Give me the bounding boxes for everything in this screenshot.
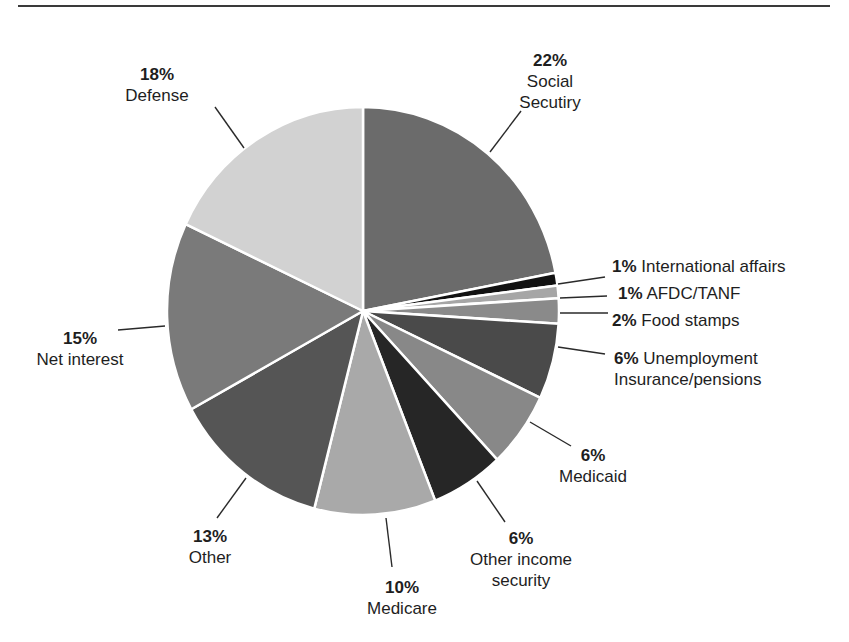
leader-medicaid [530,422,571,446]
label-pct: 15% [37,328,124,349]
label-text: Medicaid [559,466,627,487]
leader-medicare [386,518,392,567]
label-pct: 2% [612,311,637,330]
label-pct: 6% [470,528,572,549]
label-pct: 1% [618,284,643,303]
label-medicaid: 6% Medicaid [559,445,627,487]
label-text: Social [519,71,580,92]
label-text: Medicare [367,598,437,619]
leader-net-interest [118,326,165,330]
label-pct: 6% [614,349,639,368]
label-other: 13% Other [189,526,232,568]
label-pct: 6% [559,445,627,466]
label-intl-affairs: 1% International affairs [612,256,786,277]
leader-other-income [477,481,505,522]
label-text: security [470,570,572,591]
leader-intl-affairs [558,277,605,284]
label-text: Net interest [37,349,124,370]
label-pct: 22% [519,50,580,71]
label-text: Other [189,547,232,568]
label-text: Secutiry [519,92,580,113]
pie-slices [167,107,559,515]
label-unemployment: 6% Unemployment Insurance/pensions [614,348,761,390]
label-afdc: 1% AFDC/TANF [618,283,741,304]
leader-defense [215,107,244,148]
label-pct: 18% [125,64,188,85]
label-text: AFDC/TANF [646,284,740,303]
label-net-interest: 15% Net interest [37,328,124,370]
leader-afdc [560,296,607,298]
leader-other [217,478,246,518]
label-text: Unemployment [643,349,757,368]
leader-unemployment [558,347,605,354]
label-pct: 10% [367,577,437,598]
label-text: Food stamps [641,311,739,330]
label-other-income: 6% Other income security [470,528,572,591]
label-medicare: 10% Medicare [367,577,437,619]
label-defense: 18% Defense [125,64,188,106]
label-text: Insurance/pensions [614,369,761,390]
label-social-security: 22% Social Secutiry [519,50,580,113]
label-pct: 13% [189,526,232,547]
label-food-stamps: 2% Food stamps [612,310,740,331]
label-text: Defense [125,85,188,106]
leader-social-security [490,111,521,152]
label-text: Other income [470,549,572,570]
label-text: International affairs [641,257,785,276]
label-pct: 1% [612,257,637,276]
